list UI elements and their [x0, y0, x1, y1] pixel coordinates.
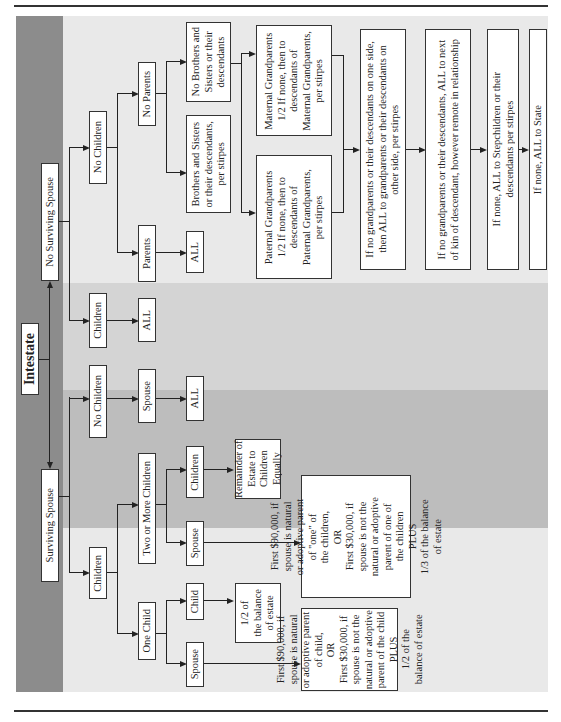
- no-surviving-spouse-box: No Surviving Spouse: [41, 163, 59, 281]
- band-children-all: [63, 283, 548, 390]
- maternal-grandparents-box: Maternal Grandparents 1/2 If none, then …: [256, 25, 332, 136]
- parents-all-box: ALL: [186, 231, 204, 273]
- ss-children-box: Children: [89, 547, 107, 599]
- ns-children-box: Children: [89, 293, 107, 348]
- step2-box: If no grandparents or their descendants,…: [425, 29, 471, 270]
- no-siblings-box: No Brothers and Sisters or their descend…: [186, 22, 231, 102]
- tm-children-box: Children: [186, 446, 204, 498]
- ns-no-children-box: No Children: [89, 111, 107, 184]
- tm-spouse-box: Spouse: [186, 521, 204, 566]
- parents-box: Parents: [138, 225, 156, 282]
- ss-no-children-box: No Children: [89, 365, 107, 438]
- top-rule: [14, 5, 548, 7]
- step4-box: If none, ALL to State: [529, 29, 547, 270]
- two-or-more-children-box: Two or More Children: [138, 453, 156, 564]
- step3-box: If none, ALL to Stepchildren or their de…: [487, 29, 519, 270]
- paternal-grandparents-box: Paternal Grandparents 1/2 If none, then …: [256, 155, 332, 279]
- oc-spouse-box: Spouse: [186, 642, 204, 687]
- step1-box: If no grandparents or their descendants …: [360, 29, 406, 270]
- no-parents-box: No Parents: [138, 62, 156, 126]
- tm-spouse-share-box: First $90,000, if spouse is natural or a…: [301, 475, 411, 598]
- intestate-title: Intestate: [21, 323, 39, 395]
- oc-spouse-share-box: First $90,000, if spouse is natural or a…: [301, 608, 398, 691]
- remainder-box: Remainder of Estate to Children Equally: [235, 439, 281, 499]
- ns-children-all-box: ALL: [138, 298, 156, 342]
- one-child-box: One Child: [138, 602, 156, 660]
- oc-child-box: Child: [186, 583, 204, 620]
- ss-spouse-all-box: ALL: [186, 376, 204, 421]
- siblings-box: Brothers and Sisters or their descendant…: [186, 115, 231, 213]
- bottom-rule: [14, 710, 548, 712]
- surviving-spouse-box: Surviving Spouse: [41, 469, 59, 582]
- ss-spouse-box: Spouse: [138, 369, 156, 423]
